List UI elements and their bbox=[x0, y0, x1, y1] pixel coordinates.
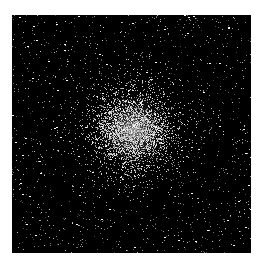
star-cluster-image bbox=[12, 15, 251, 253]
star-field-canvas bbox=[12, 15, 251, 253]
